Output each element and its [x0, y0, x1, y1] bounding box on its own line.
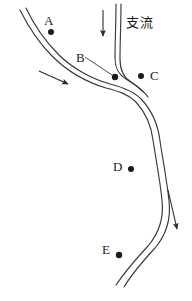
- point-label-e: E: [102, 243, 110, 256]
- point-label-c: C: [150, 69, 159, 82]
- point-marker-b: [112, 74, 118, 80]
- point-marker-e: [116, 252, 122, 258]
- flow-arrows: [39, 10, 177, 229]
- point-label-a: A: [44, 14, 53, 27]
- point-marker-d: [128, 166, 134, 172]
- main-river-channel: [20, 8, 169, 287]
- point-label-b: B: [76, 51, 85, 64]
- point-b-leader-line: [85, 57, 112, 75]
- upper-main-flow-arrow: [39, 71, 68, 84]
- main-river-left-bank: [20, 10, 162, 285]
- river-canvas: [0, 0, 192, 301]
- tributary-label: 支流: [126, 16, 154, 29]
- point-label-d: D: [113, 160, 122, 173]
- point-markers: [48, 29, 144, 258]
- point-marker-a: [48, 29, 54, 35]
- point-marker-c: [138, 73, 144, 79]
- river-diagram: A B C D E 支流: [0, 0, 192, 301]
